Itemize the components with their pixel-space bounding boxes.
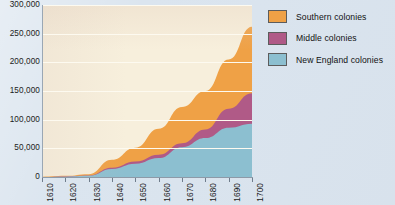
gridline [42,34,252,35]
x-axis-tick [135,178,136,182]
legend-color-swatch [268,53,287,66]
chart-legend: Southern coloniesMiddle coloniesNew Engl… [268,6,392,71]
x-axis-tick-label: 1680 [209,183,218,202]
x-axis-tick [42,178,43,182]
chart-page: 300,000250,000200,000150,000100,00050,00… [0,0,395,205]
legend-color-swatch [268,10,287,23]
y-axis-tick-label: 300,000 [0,0,40,9]
y-axis-tick-label: 150,000 [0,86,40,95]
x-axis-tick-label: 1620 [69,183,78,202]
legend-item[interactable]: New England colonies [268,49,392,71]
x-axis-tick [159,178,160,182]
gridline [42,120,252,121]
gridline [42,91,252,92]
y-axis-tick-label: 50,000 [0,143,40,152]
legend-label: Southern colonies [296,12,367,22]
x-axis-tick-label: 1690 [233,183,242,202]
gridline [42,62,252,63]
legend-item[interactable]: Southern colonies [268,6,392,28]
y-axis-tick-label: 200,000 [0,57,40,66]
x-axis-tick [205,178,206,182]
y-axis-line [42,5,43,178]
legend-item[interactable]: Middle colonies [268,28,392,50]
x-axis-tick-label: 1670 [186,183,195,202]
y-axis-tick-label: 100,000 [0,115,40,124]
legend-label: Middle colonies [296,33,357,43]
x-axis-tick [229,178,230,182]
legend-label: New England colonies [296,55,383,65]
x-axis-tick [112,178,113,182]
x-axis-tick-label: 1660 [163,183,172,202]
legend-color-swatch [268,32,287,45]
gridline [42,5,252,6]
x-axis-tick-label: 1640 [116,183,125,202]
x-axis-tick-label: 1630 [93,183,102,202]
plot-area [42,5,252,177]
x-axis-tick-label: 1650 [139,183,148,202]
y-axis-tick-label: 0 [0,172,40,181]
x-axis-tick [182,178,183,182]
gridline [42,148,252,149]
x-axis-tick-label: 1610 [46,183,55,202]
x-axis-line [42,177,253,178]
x-axis-tick [65,178,66,182]
x-axis-tick-label: 1700 [256,183,265,202]
y-axis-tick-label: 250,000 [0,29,40,38]
x-axis-tick [89,178,90,182]
x-axis-tick [252,178,253,182]
y-axis-labels: 300,000250,000200,000150,000100,00050,00… [0,0,40,205]
